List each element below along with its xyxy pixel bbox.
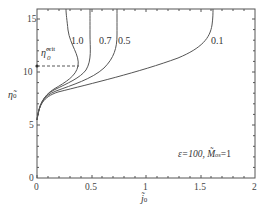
curve-label-0-7: 0.7 xyxy=(99,36,112,46)
critical-point-marker xyxy=(35,64,38,67)
curve-label-0-5: 0.5 xyxy=(118,36,131,46)
parameter-annotation: ε=100, M̃os=1 xyxy=(178,149,231,160)
annotation-text: ε=100, M̃ xyxy=(178,149,215,159)
eta-crit-sup: crit xyxy=(46,45,55,53)
x-tick-2: 2 xyxy=(252,182,257,192)
x-tick-1-5: 1.5 xyxy=(194,182,206,192)
eta-crit-sub: 0 xyxy=(47,53,51,63)
curve-1-0 xyxy=(37,9,78,120)
plot-area xyxy=(0,0,262,211)
annotation-tail: =1 xyxy=(221,149,231,159)
curve-label-0-1: 0.1 xyxy=(211,36,224,46)
y-tick-5: 5 xyxy=(29,120,34,130)
curve-0-7 xyxy=(37,9,90,120)
x-tick-1: 1 xyxy=(143,182,148,192)
curve-0-5 xyxy=(37,9,117,120)
y-axis-sub: 0 xyxy=(13,92,17,100)
x-tick-0: 0 xyxy=(34,182,39,192)
x-axis-sub: 0 xyxy=(144,196,148,204)
y-tick-15: 15 xyxy=(27,14,37,24)
x-axis-label: j̃0 xyxy=(141,194,147,205)
eta-crit-label: η̃crit0 xyxy=(41,48,55,59)
y-tick-10: 10 xyxy=(23,67,33,77)
y-axis-label: η̃0 xyxy=(8,90,16,101)
curve-0-1 xyxy=(37,9,213,120)
curve-label-1-0: 1.0 xyxy=(71,36,84,46)
x-tick-0-5: 0.5 xyxy=(85,182,97,192)
